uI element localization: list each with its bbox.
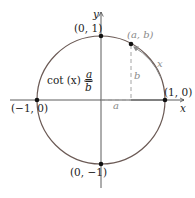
label-b: b bbox=[134, 70, 140, 81]
label-right: (1, 0) bbox=[164, 86, 192, 98]
formula-denominator: b bbox=[85, 81, 92, 93]
label-a: a bbox=[113, 100, 119, 111]
point-top bbox=[99, 34, 104, 39]
unit-circle-diagram: y x (0, 1) (1, 0) (−1, 0) (0, −1) (a, b)… bbox=[0, 0, 195, 198]
label-arc-x: x bbox=[157, 58, 163, 69]
label-bottom: (0, −1) bbox=[70, 166, 107, 178]
point-right bbox=[163, 98, 168, 103]
x-axis-label: x bbox=[180, 102, 186, 114]
formula-numerator: a bbox=[86, 68, 92, 80]
label-left: (−1, 0) bbox=[11, 102, 48, 114]
label-terminal: (a, b) bbox=[127, 29, 154, 40]
label-top: (0, 1) bbox=[74, 22, 102, 34]
y-axis-label: y bbox=[92, 8, 100, 20]
point-terminal bbox=[129, 42, 134, 47]
